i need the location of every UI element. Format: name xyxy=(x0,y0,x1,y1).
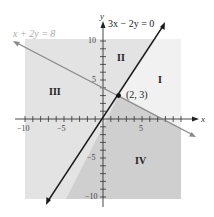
graph: y x 3x − 2y = 0 x + 2y = 8 10 5 −5 −10 −… xyxy=(0,0,214,217)
region-label-i: I xyxy=(158,74,162,85)
intersection-point xyxy=(116,93,121,98)
tick-label-y-5: 5 xyxy=(92,75,96,84)
intersection-label: (2, 3) xyxy=(126,89,148,101)
equation-label-x-2y: x + 2y = 8 xyxy=(12,28,55,39)
x-axis-label: x xyxy=(200,114,205,124)
region-label-iii: III xyxy=(49,86,61,97)
tick-label-x-neg5: −5 xyxy=(57,124,66,133)
equation-label-3x-2y: 3x − 2y = 0 xyxy=(108,18,154,29)
tick-label-x-5: 5 xyxy=(139,124,143,133)
region-label-ii: II xyxy=(117,52,125,63)
tick-label-x-neg10: −10 xyxy=(17,124,30,133)
y-axis-label: y xyxy=(99,11,104,21)
tick-label-y-neg5: −5 xyxy=(87,153,96,162)
x-axis-arrow-icon xyxy=(192,117,199,122)
y-axis-arrow-icon xyxy=(101,21,106,28)
tick-label-y-10: 10 xyxy=(88,36,96,45)
arrow-icon xyxy=(13,41,20,47)
tick-label-y-neg10: −10 xyxy=(85,192,98,201)
region-label-iv: IV xyxy=(135,155,147,166)
